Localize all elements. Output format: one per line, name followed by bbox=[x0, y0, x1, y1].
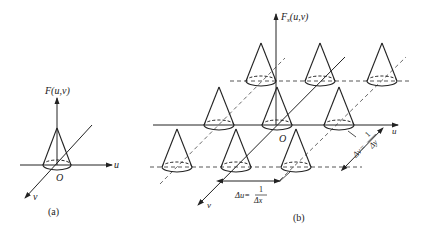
caption-b: (b) bbox=[293, 212, 305, 224]
origin-label-a: O bbox=[56, 172, 63, 183]
svg-text:1: 1 bbox=[363, 130, 372, 139]
axis-u-label-a: u bbox=[114, 159, 119, 170]
svg-text:Δv=: Δv= bbox=[350, 142, 368, 160]
svg-text:1: 1 bbox=[259, 185, 263, 194]
delta-v-formula: Δv= 1 Δy bbox=[346, 127, 383, 164]
cone-bot-2 bbox=[221, 129, 251, 172]
delta-u-formula: Δu= 1 Δx bbox=[234, 185, 267, 205]
figure-a: F(u,v) u v O (a) bbox=[20, 85, 119, 218]
cone-bot-1 bbox=[162, 129, 192, 172]
figure-b: Fs(u,v) u v O Δu= 1 Δx Δv= 1 Δy (b) bbox=[150, 11, 410, 224]
diagram-canvas: F(u,v) u v O (a) bbox=[0, 0, 423, 237]
cone-mid-1 bbox=[204, 87, 234, 130]
cone-top-3 bbox=[367, 43, 397, 86]
axis-v-b bbox=[198, 57, 345, 205]
axis-f-label-a: F(u,v) bbox=[44, 85, 70, 97]
caption-a: (a) bbox=[48, 206, 59, 218]
delta-u-leader bbox=[280, 172, 290, 181]
cone-mid-2 bbox=[262, 87, 292, 130]
axis-u-label-b: u bbox=[392, 126, 397, 136]
axis-v-label-b: v bbox=[207, 200, 211, 210]
cone-mid-3 bbox=[324, 87, 354, 130]
axis-v-a bbox=[25, 125, 92, 198]
axis-f-label-b: Fs(u,v) bbox=[280, 11, 309, 24]
cone-top-1 bbox=[246, 43, 276, 86]
delta-v-leader bbox=[348, 131, 356, 137]
axis-v-label-a: v bbox=[33, 191, 38, 202]
svg-text:Δy: Δy bbox=[367, 138, 380, 151]
dashed-diagonal-2 bbox=[280, 57, 406, 180]
origin-label-b: O bbox=[279, 133, 286, 144]
svg-text:Δu=: Δu= bbox=[234, 190, 250, 200]
cone-top-2 bbox=[305, 43, 335, 86]
svg-text:Δx: Δx bbox=[253, 196, 263, 205]
